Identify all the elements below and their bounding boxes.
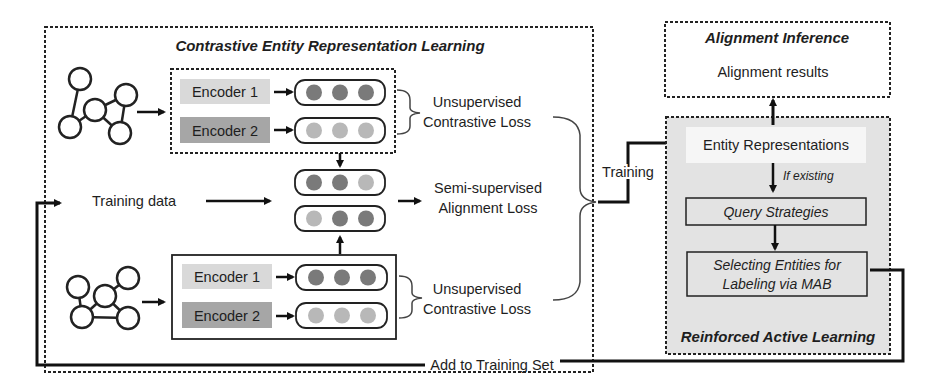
top-emb1-vector (295, 80, 385, 105)
semi-loss-line1: Semi-supervised (434, 180, 542, 196)
top-encoder2-label: Encoder 2 (192, 123, 258, 139)
top-loss-line2: Contrastive Loss (423, 114, 531, 130)
bottom-brace-icon (399, 276, 422, 318)
cerl-title: Contrastive Entity Representation Learni… (175, 37, 484, 54)
bottom-emb2-vector (296, 303, 387, 328)
framework-diagram: Contrastive Entity Representation Learni… (0, 0, 937, 390)
top-encoder1-label: Encoder 1 (192, 84, 258, 100)
training-label: Training (602, 164, 654, 180)
bottom-emb1-vector (296, 265, 387, 290)
top-brace-icon (397, 90, 420, 134)
kg1-graph-icon (59, 68, 137, 144)
query-strategies-label: Query Strategies (723, 204, 828, 220)
alignment-inference-title: Alignment Inference (704, 29, 849, 46)
bottom-loss-line1: Unsupervised (433, 281, 522, 297)
selecting-line2: Labeling via MAB (723, 276, 832, 292)
semi-loss-line2: Alignment Loss (438, 200, 537, 216)
bottom-encoder2-label: Encoder 2 (194, 308, 260, 324)
entity-representations-label: Entity Representations (703, 137, 849, 153)
combine-brace-icon (553, 117, 596, 300)
alignment-results-label: Alignment results (717, 64, 828, 80)
bottom-encoder1-label: Encoder 1 (194, 269, 260, 285)
if-existing-label: If existing (783, 169, 834, 183)
training-data-label: Training data (92, 193, 177, 209)
aligned-vector-2 (295, 206, 385, 231)
top-loss-line1: Unsupervised (433, 94, 522, 110)
kg2-graph-icon (67, 267, 139, 329)
bottom-loss-line2: Contrastive Loss (423, 301, 531, 317)
add-to-training-set-label: Add to Training Set (430, 357, 553, 373)
selecting-line1: Selecting Entities for (713, 257, 842, 273)
ral-title: Reinforced Active Learning (681, 328, 876, 345)
aligned-vector-1 (295, 170, 385, 195)
top-emb2-vector (295, 118, 385, 143)
